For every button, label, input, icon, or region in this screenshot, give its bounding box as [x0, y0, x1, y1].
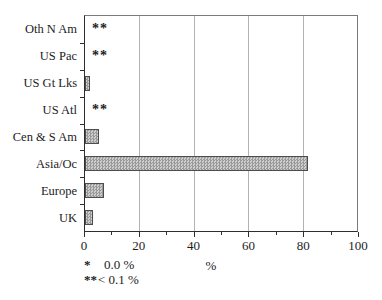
- footnote-text: < 0.1 %: [98, 272, 139, 287]
- x-axis-tick-label: 40: [187, 239, 200, 252]
- x-axis-minor-tick: [111, 232, 112, 235]
- footnote-line: *0.0 %: [84, 257, 139, 272]
- y-axis-tick: [80, 43, 85, 44]
- footnotes: *0.0 %**< 0.1 %: [84, 257, 139, 287]
- y-axis-tick: [80, 177, 85, 178]
- x-axis-minor-tick: [221, 232, 222, 235]
- x-axis-tick-label: 100: [348, 239, 368, 252]
- plot-area: Oth N Am**US Pac**US Gt LksUS Atl**Cen &…: [84, 15, 358, 232]
- x-axis-minor-tick: [331, 232, 332, 235]
- y-axis-category-label: Cen & S Am: [13, 131, 77, 144]
- x-axis-major-tick: [303, 232, 304, 237]
- x-axis-minor-tick: [166, 232, 167, 235]
- x-axis-major-tick: [248, 232, 249, 237]
- x-axis-minor-tick: [276, 232, 277, 235]
- footnote-symbol: *: [84, 257, 98, 272]
- footnote-text: 0.0 %: [104, 257, 134, 272]
- x-axis-tick-label: 0: [81, 239, 88, 252]
- y-axis-tick: [80, 204, 85, 205]
- y-axis-category-label: US Atl: [43, 104, 77, 117]
- y-axis-tick: [80, 124, 85, 125]
- x-axis-major-tick: [358, 232, 359, 237]
- x-axis-tick-label: 60: [242, 239, 255, 252]
- y-axis-tick: [80, 97, 85, 98]
- footnote-symbol: **: [84, 272, 98, 287]
- x-axis-tick-label: 20: [132, 239, 145, 252]
- x-axis-major-tick: [194, 232, 195, 237]
- y-axis-ticks: [85, 16, 357, 231]
- y-axis-category-label: Europe: [41, 184, 77, 197]
- y-axis-category-label: US Pac: [40, 50, 77, 63]
- y-axis-tick: [80, 150, 85, 151]
- bar-chart-figure: Oth N Am**US Pac**US Gt LksUS Atl**Cen &…: [0, 0, 382, 300]
- x-axis-major-tick: [84, 232, 85, 237]
- y-axis-category-label: Asia/Oc: [36, 158, 77, 171]
- y-axis-category-label: Oth N Am: [25, 23, 77, 36]
- y-axis-category-label: US Gt Lks: [24, 77, 77, 90]
- y-axis-tick: [80, 70, 85, 71]
- y-axis-category-label: UK: [59, 211, 77, 224]
- x-axis-major-tick: [139, 232, 140, 237]
- footnote-line: **< 0.1 %: [84, 272, 139, 287]
- x-axis-tick-label: 80: [297, 239, 310, 252]
